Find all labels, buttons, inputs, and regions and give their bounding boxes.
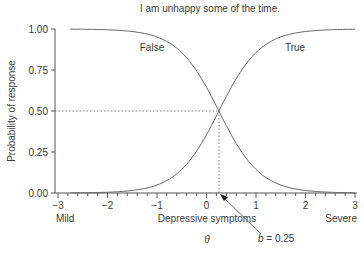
x-tick-label: −2 <box>102 200 114 211</box>
false-curve-label: False <box>140 42 165 53</box>
difficulty-value: = 0.25 <box>264 233 295 244</box>
x-tick-label: 3 <box>352 200 358 211</box>
y-axis-label: Probability of response <box>6 60 17 162</box>
difficulty-annotation: b = 0.25 <box>258 233 295 244</box>
x-axis-right-label: Severe <box>325 213 357 224</box>
x-tick-label: 2 <box>303 200 309 211</box>
y-tick-label: 0.50 <box>29 106 49 117</box>
y-tick-label: 1.00 <box>29 24 49 35</box>
x-tick-label: −3 <box>52 200 64 211</box>
y-ticks: 0.000.250.500.751.00 <box>29 24 55 199</box>
chart-title: I am unhappy some of the time. <box>140 3 280 14</box>
item-characteristic-chart: I am unhappy some of the time. 0.000.250… <box>0 0 364 253</box>
x-tick-label: −1 <box>151 200 163 211</box>
y-tick-label: 0.00 <box>29 188 49 199</box>
theta-symbol: θ <box>204 234 210 245</box>
y-tick-label: 0.25 <box>29 147 49 158</box>
true-curve-label: True <box>285 42 306 53</box>
x-tick-label: 1 <box>253 200 259 211</box>
y-tick-label: 0.75 <box>29 65 49 76</box>
x-tick-label: 0 <box>204 200 210 211</box>
x-ticks: −3−2−10123 <box>52 193 358 211</box>
x-axis-left-label: Mild <box>56 213 74 224</box>
